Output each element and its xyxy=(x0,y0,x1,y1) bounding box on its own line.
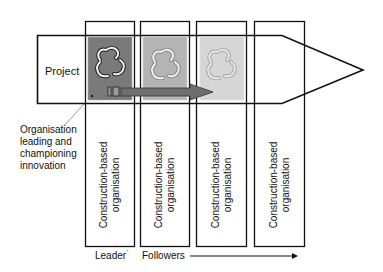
annotation-pointer-line xyxy=(64,104,84,126)
annotation-line: Organisation xyxy=(20,124,90,136)
annotation-line: leading and xyxy=(20,136,90,148)
annotation-line: innovation xyxy=(20,160,90,172)
leader-mark: ' xyxy=(127,247,128,259)
leader-label: Leader xyxy=(95,250,126,262)
followers-arrowhead xyxy=(292,253,298,259)
column-4-label: Construction-based organisation xyxy=(268,135,292,235)
transfer-box xyxy=(113,87,119,96)
column-1-label: Construction-based organisation xyxy=(98,135,122,235)
annotation-line: championing xyxy=(20,148,90,160)
transfer-box xyxy=(108,87,111,96)
column-3-label: Construction-based organisation xyxy=(210,135,234,235)
project-label: Project xyxy=(45,65,79,77)
tile-marker-dot xyxy=(91,95,93,97)
followers-label: Followers xyxy=(142,250,185,262)
column-2-label: Construction-based organisation xyxy=(153,135,177,235)
annotation-text: Organisation leading and championing inn… xyxy=(20,124,90,172)
